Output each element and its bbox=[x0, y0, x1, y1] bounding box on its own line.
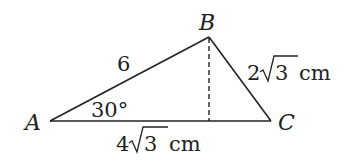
vertex-label-b: B bbox=[198, 10, 215, 35]
vertex-label-a: A bbox=[23, 110, 41, 135]
triangle-diagram: A B C 6 30° 2 3 cm 4 3 cm bbox=[0, 0, 346, 160]
side-ac-unit: cm bbox=[169, 132, 201, 156]
side-ab bbox=[50, 37, 209, 121]
side-ac-radicand: 3 bbox=[144, 132, 157, 156]
side-ab-label: 6 bbox=[117, 52, 130, 76]
vertex-label-c: C bbox=[278, 110, 295, 135]
side-ac-label: 4 3 cm bbox=[116, 127, 201, 156]
side-bc-radicand: 3 bbox=[275, 61, 288, 85]
side-ac-coef: 4 bbox=[116, 132, 129, 156]
side-bc-unit: cm bbox=[299, 61, 331, 85]
side-bc bbox=[209, 37, 271, 121]
angle-a-label: 30° bbox=[91, 98, 128, 122]
side-bc-label: 2 3 cm bbox=[247, 56, 331, 85]
side-bc-coef: 2 bbox=[247, 61, 260, 85]
